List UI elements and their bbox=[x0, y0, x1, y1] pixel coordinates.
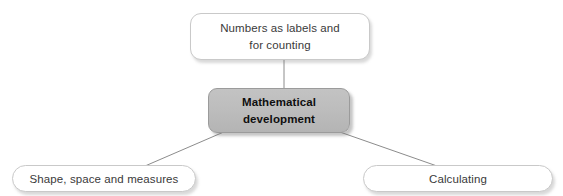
connector-center-to-bottom-left bbox=[145, 131, 226, 166]
node-label-shape-space-and-measures: Shape, space and measures bbox=[13, 172, 195, 186]
node-label-numbers-as-labels-and-for-counting: Numbers as labels and for counting bbox=[191, 20, 369, 54]
node-calculating[interactable]: Calculating bbox=[363, 165, 553, 192]
node-numbers-as-labels-and-for-counting[interactable]: Numbers as labels and for counting bbox=[190, 13, 370, 60]
diagram-canvas: Numbers as labels and for counting Mathe… bbox=[0, 0, 563, 196]
node-label-mathematical-development: Mathematical development bbox=[209, 94, 349, 128]
node-mathematical-development[interactable]: Mathematical development bbox=[208, 88, 350, 133]
connector-center-to-bottom-right bbox=[337, 131, 437, 166]
node-shape-space-and-measures[interactable]: Shape, space and measures bbox=[12, 165, 196, 192]
node-label-calculating: Calculating bbox=[364, 172, 552, 186]
